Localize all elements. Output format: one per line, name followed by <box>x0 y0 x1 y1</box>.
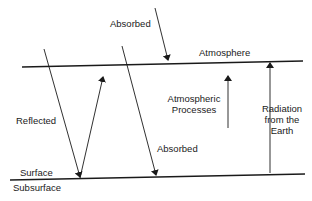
atmospheric-processes-line1: Atmospheric <box>164 93 224 104</box>
reflected-label: Reflected <box>16 115 56 126</box>
atmosphere-label: Atmosphere <box>199 47 250 58</box>
atmosphere-absorbed-arrow <box>155 8 168 60</box>
atmosphere-boundary-line <box>22 61 303 67</box>
radiation-line2: from the <box>254 114 310 125</box>
atmospheric-processes-label: Atmospheric Processes <box>164 93 224 115</box>
surface-boundary-line <box>10 174 305 180</box>
radiation-from-earth-label: Radiation from the Earth <box>254 103 310 136</box>
subsurface-label: Subsurface <box>13 182 61 193</box>
incoming-reflected-arrow <box>44 49 80 177</box>
absorbed-surface-label: Absorbed <box>157 143 198 154</box>
surface-label: Surface <box>20 167 53 178</box>
atmospheric-processes-line2: Processes <box>164 104 224 115</box>
absorbed-top-label: Absorbed <box>110 18 151 29</box>
radiation-line3: Earth <box>254 125 310 136</box>
surface-absorbed-arrow <box>122 46 156 175</box>
radiation-line1: Radiation <box>254 103 310 114</box>
reflected-outgoing-arrow <box>80 77 103 178</box>
